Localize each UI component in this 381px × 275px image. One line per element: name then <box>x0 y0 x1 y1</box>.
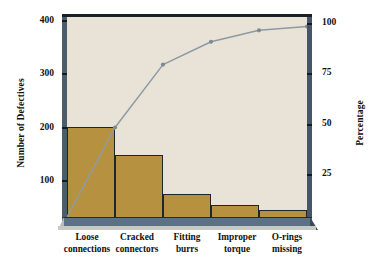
cumulative-line-markers <box>113 24 307 129</box>
axis-base-front-face <box>58 226 316 230</box>
category-line-1: Improper <box>212 232 262 244</box>
cumulative-marker-0 <box>113 125 117 129</box>
y-right-tick-25: 25 <box>322 168 352 178</box>
category-label-loose-connections: Loose connections <box>62 232 112 272</box>
category-line-1: Fitting <box>162 232 212 244</box>
category-line-2: missing <box>262 244 312 256</box>
cumulative-marker-1 <box>161 63 165 67</box>
pareto-chart: Number of Defectives Percentage 400 300 … <box>0 0 381 275</box>
cumulative-marker-3 <box>257 28 261 32</box>
category-label-o-rings-missing: O-rings missing <box>262 232 312 272</box>
category-line-2: connectors <box>112 244 162 256</box>
category-line-1: O-rings <box>262 232 312 244</box>
category-line-1: Cracked <box>112 232 162 244</box>
category-line-1: Loose <box>62 232 112 244</box>
category-line-2: torque <box>212 244 262 256</box>
plot-area <box>67 17 307 217</box>
cumulative-percentage-line <box>67 17 307 217</box>
y-left-tick-400: 400 <box>24 15 54 25</box>
y-right-tick-75: 75 <box>322 67 352 77</box>
category-label-fitting-burrs: Fitting burrs <box>162 232 212 272</box>
category-label-improper-torque: Improper torque <box>212 232 262 272</box>
axis-right-bevel <box>307 14 312 220</box>
category-line-2: burrs <box>162 244 212 256</box>
cumulative-marker-2 <box>209 40 213 44</box>
y-left-tick-200: 200 <box>24 122 54 132</box>
category-label-cracked-connectors: Cracked connectors <box>112 232 162 272</box>
category-line-2: connections <box>62 244 112 256</box>
y-right-tick-50: 50 <box>322 118 352 128</box>
y-right-tick-100: 100 <box>322 17 352 27</box>
plot-frame <box>62 14 312 220</box>
y-axis-right-title: Percentage <box>355 58 365 188</box>
x-axis-category-labels: Loose connections Cracked connectors Fit… <box>62 232 312 272</box>
cumulative-marker-4 <box>305 24 307 28</box>
cumulative-line-path <box>67 27 307 217</box>
y-left-tick-100: 100 <box>24 175 54 185</box>
y-left-tick-300: 300 <box>24 68 54 78</box>
